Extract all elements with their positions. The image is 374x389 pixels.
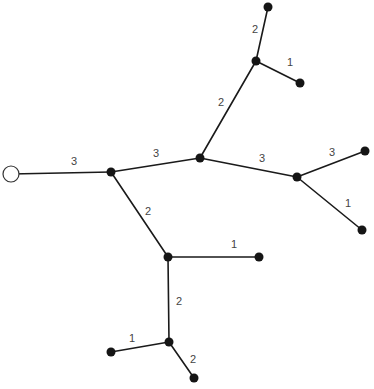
edge-weight-label: 2 xyxy=(252,23,258,35)
edge-n1-n2 xyxy=(111,158,200,172)
tree-node xyxy=(107,168,116,177)
edge-weight-label: 2 xyxy=(145,205,151,217)
edge-weight-label: 3 xyxy=(71,155,77,167)
edge-n2-n6 xyxy=(200,158,297,177)
edge-weight-label: 3 xyxy=(329,146,335,158)
edge-n9-n11 xyxy=(168,257,169,342)
tree-node xyxy=(196,154,205,163)
tree-node xyxy=(296,79,305,88)
tree-node xyxy=(165,338,174,347)
edge-weight-label: 1 xyxy=(129,332,135,344)
tree-node xyxy=(361,147,370,156)
tree-node xyxy=(293,173,302,182)
edge-weight-label: 1 xyxy=(345,197,351,209)
edge-labels-layer: 3322133121212 xyxy=(71,23,351,365)
edge-weight-label: 1 xyxy=(231,238,237,250)
nodes-layer xyxy=(3,3,370,383)
edge-n3-n5 xyxy=(256,61,300,83)
tree-node xyxy=(252,57,261,66)
edge-weight-label: 2 xyxy=(190,353,196,365)
edge-n6-n8 xyxy=(297,177,362,230)
edge-weight-label: 3 xyxy=(153,147,159,159)
edge-n2-n3 xyxy=(200,61,256,158)
tree-node xyxy=(107,348,116,357)
tree-node xyxy=(164,253,173,262)
edge-n11-n12 xyxy=(111,342,169,352)
edge-weight-label: 2 xyxy=(176,295,182,307)
tree-node xyxy=(264,3,273,12)
tree-diagram: 3322133121212 xyxy=(0,0,374,389)
edge-weight-label: 1 xyxy=(287,56,293,68)
tree-node xyxy=(255,253,264,262)
root-node xyxy=(3,166,19,182)
edges-layer xyxy=(11,7,365,378)
edge-n0-n1 xyxy=(11,172,111,174)
edge-n1-n9 xyxy=(111,172,168,257)
edge-weight-label: 3 xyxy=(259,152,265,164)
tree-node xyxy=(190,374,199,383)
edge-weight-label: 2 xyxy=(218,96,224,108)
tree-node xyxy=(358,226,367,235)
